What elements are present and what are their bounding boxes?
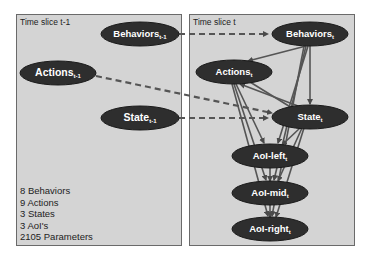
node-state-t: Statet	[272, 105, 348, 129]
node-behaviors-t: Behaviorst	[272, 22, 348, 46]
node-aoi-mid-t: AoI-midt	[232, 181, 308, 205]
svg-text:Actionst: Actionst	[216, 66, 253, 78]
node-behaviors-prev: Behaviorst-1	[101, 22, 179, 46]
svg-text:AoI-rightt: AoI-rightt	[249, 223, 291, 235]
edge-behaviors-actions	[248, 46, 306, 61]
node-aoi-left-t: AoI-leftt	[232, 144, 308, 168]
node-actions-prev: Actionst-1	[20, 61, 96, 85]
svg-text:Behaviorst: Behaviorst	[286, 28, 334, 40]
node-state-prev: Statet-1	[101, 106, 179, 130]
svg-text:AoI-leftt: AoI-leftt	[253, 150, 288, 162]
svg-text:Behaviorst-1: Behaviorst-1	[113, 28, 167, 40]
edge-state-actions	[240, 84, 298, 106]
node-aoi-right-t: AoI-rightt	[232, 217, 308, 241]
svg-text:AoI-midt: AoI-midt	[251, 187, 288, 199]
node-actions-t: Actionst	[196, 60, 272, 84]
svg-text:Statet: Statet	[297, 111, 322, 123]
network-diagram: Behaviorst-1 Actionst-1 Statet-1 Behavio…	[0, 0, 370, 256]
